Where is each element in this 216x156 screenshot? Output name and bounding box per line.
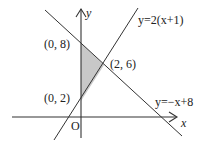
line-label-2x-plus-1: y=2(x+1)	[138, 14, 184, 26]
point-label-0-8: (0, 8)	[44, 38, 70, 50]
origin-label: O	[71, 120, 80, 132]
point-label-0-2: (0, 2)	[44, 92, 70, 104]
line-label-neg-x-plus-8: y=−x+8	[155, 96, 193, 108]
point-label-2-6: (2, 6)	[110, 58, 136, 70]
line-y-eq-2x-plus-2	[54, 8, 138, 140]
coordinate-plane	[0, 0, 216, 156]
y-axis-label: y	[86, 7, 91, 19]
x-axis-label: x	[181, 117, 186, 129]
